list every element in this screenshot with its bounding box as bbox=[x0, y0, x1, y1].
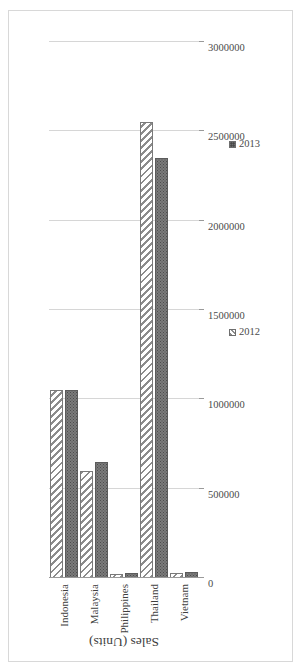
category-label-indonesia: Indonesia bbox=[58, 584, 70, 627]
gridline-2000000 bbox=[49, 220, 199, 221]
chart-stage: Sales (Units) 05000001000000150000020000… bbox=[35, 16, 267, 656]
bar-indonesia-2012 bbox=[50, 390, 63, 578]
legend-item-2012[interactable]: 2012 bbox=[229, 326, 260, 337]
tick-mark-1500000 bbox=[199, 309, 204, 310]
legend-swatch-2013 bbox=[229, 142, 236, 149]
value-axis-title: Sales (Units) bbox=[88, 634, 158, 650]
legend-item-2013[interactable]: 2013 bbox=[229, 138, 260, 149]
plot-area bbox=[49, 42, 199, 578]
bar-thailand-2012 bbox=[140, 122, 153, 578]
tick-mark-0 bbox=[199, 577, 204, 578]
gridline-2500000 bbox=[49, 130, 199, 131]
gridline-3000000 bbox=[49, 41, 199, 42]
legend-swatch-2012 bbox=[229, 329, 236, 336]
tick-label-2000000: 2000000 bbox=[208, 221, 245, 232]
tick-mark-500000 bbox=[199, 488, 204, 489]
bar-malaysia-2012 bbox=[80, 471, 93, 578]
category-label-philippines: Philippines bbox=[118, 584, 130, 634]
tick-mark-3000000 bbox=[199, 41, 204, 42]
tick-label-1000000: 1000000 bbox=[208, 399, 245, 410]
tick-label-3000000: 3000000 bbox=[208, 42, 245, 53]
bar-indonesia-2013 bbox=[64, 390, 77, 578]
tick-mark-1000000 bbox=[199, 398, 204, 399]
tick-label-0: 0 bbox=[208, 578, 213, 589]
gridline-1500000 bbox=[49, 309, 199, 310]
value-axis-baseline bbox=[49, 577, 199, 578]
chart-page: Sales (Units) 05000001000000150000020000… bbox=[0, 0, 301, 672]
chart-rotation-wrapper: Sales (Units) 05000001000000150000020000… bbox=[0, 0, 301, 672]
bar-malaysia-2013 bbox=[94, 462, 107, 578]
bar-thailand-2013 bbox=[154, 158, 167, 578]
category-label-malaysia: Malaysia bbox=[88, 584, 100, 624]
tick-mark-2000000 bbox=[199, 220, 204, 221]
category-label-thailand: Thailand bbox=[148, 584, 160, 623]
legend-label-2013: 2013 bbox=[239, 138, 260, 149]
category-label-vietnam: Vietnam bbox=[178, 584, 190, 621]
tick-label-500000: 500000 bbox=[208, 489, 240, 500]
legend-label-2012: 2012 bbox=[239, 326, 260, 337]
tick-mark-2500000 bbox=[199, 130, 204, 131]
tick-label-1500000: 1500000 bbox=[208, 310, 245, 321]
